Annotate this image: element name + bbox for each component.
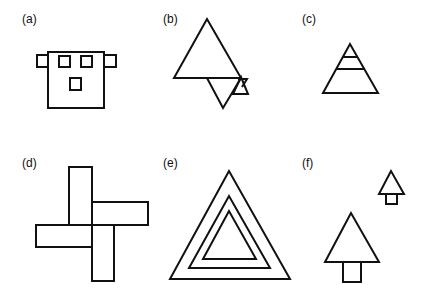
- figure-canvas: [0, 0, 423, 294]
- shape-f-trees: [325, 171, 404, 282]
- shape-c-striped-triangle: [323, 44, 378, 93]
- shape-e-nested-triangles: [170, 171, 290, 279]
- shape-b-triangles: [174, 19, 248, 108]
- shape-d-pinwheel: [36, 167, 148, 281]
- shape-a-face: [37, 52, 116, 108]
